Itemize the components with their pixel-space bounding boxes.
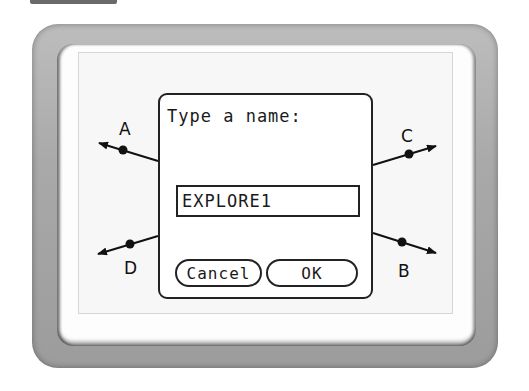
ray-label-c: C [401, 126, 413, 146]
ray-c [373, 146, 436, 165]
ray-b [373, 233, 436, 253]
ray-a [99, 143, 158, 161]
name-dialog: Type a name: EXPLORE1 Cancel OK [158, 93, 373, 299]
ray-label-b: B [398, 261, 410, 281]
ray-label-a: A [119, 119, 131, 139]
ray-label-d: D [124, 258, 137, 278]
cancel-button[interactable]: Cancel [175, 259, 262, 287]
ray-d [98, 236, 158, 254]
ok-button[interactable]: OK [266, 259, 358, 287]
name-input[interactable]: EXPLORE1 [176, 185, 360, 217]
dialog-prompt: Type a name: [167, 106, 302, 126]
